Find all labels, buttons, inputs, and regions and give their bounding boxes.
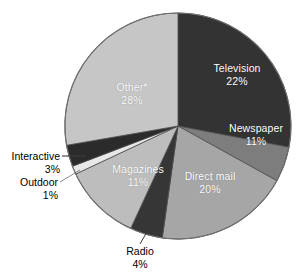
slice-label-outdoor: Outdoor 1% bbox=[0, 176, 58, 201]
pie-slice-other[interactable] bbox=[65, 13, 178, 145]
slice-label-interactive: Interactive 3% bbox=[0, 150, 60, 175]
slice-label-radio: Radio 4% bbox=[108, 245, 172, 270]
slice-label-television: Television 22% bbox=[200, 62, 274, 87]
slice-label-direct-mail: Direct mail 20% bbox=[170, 170, 250, 195]
pie-chart: Television 22% Newspaper 11% Direct mail… bbox=[0, 0, 304, 273]
slice-label-other: Other* 28% bbox=[100, 81, 164, 106]
slice-label-newspaper: Newspaper 11% bbox=[218, 122, 294, 147]
slice-label-magazines: Magazines 11% bbox=[100, 163, 176, 188]
